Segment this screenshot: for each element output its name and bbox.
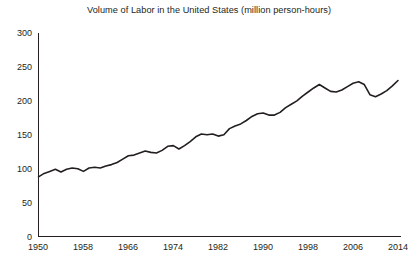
y-tick-label-300: 300: [2, 29, 32, 38]
x-tick-label-2006: 2006: [333, 243, 373, 252]
x-tick-label-1998: 1998: [288, 243, 328, 252]
y-tick-label-150: 150: [2, 131, 32, 140]
x-tick-label-1982: 1982: [198, 243, 238, 252]
x-tick-label-1950: 1950: [18, 243, 58, 252]
y-tick-label-250: 250: [2, 63, 32, 72]
series-line-volume-of-labor: [39, 80, 399, 176]
x-tick-label-1990: 1990: [243, 243, 283, 252]
x-tick-label-2014: 2014: [378, 243, 418, 252]
y-tick-label-50: 50: [2, 199, 32, 208]
x-tick-label-1966: 1966: [108, 243, 148, 252]
chart-figure: Volume of Labor in the United States (mi…: [0, 0, 418, 257]
line-chart-plot: [0, 0, 418, 257]
x-tick-label-1974: 1974: [153, 243, 193, 252]
y-tick-label-200: 200: [2, 97, 32, 106]
y-tick-label-100: 100: [2, 165, 32, 174]
y-tick-label-0: 0: [2, 233, 32, 242]
x-tick-label-1958: 1958: [63, 243, 103, 252]
